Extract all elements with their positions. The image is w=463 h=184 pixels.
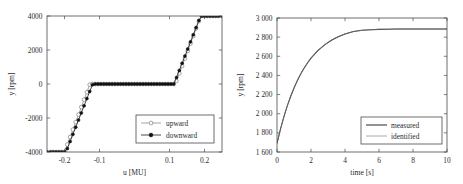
y-tick-label: 2 400: [256, 71, 273, 80]
series-marker-downward: [178, 69, 181, 72]
x-tick-label: 6: [377, 156, 381, 165]
series-marker-downward: [66, 147, 69, 150]
right-y-axis-title: y [rpm]: [236, 74, 245, 97]
legend-label-measured: measured: [391, 121, 420, 130]
legend-swatch-downward-marker: [149, 133, 153, 137]
x-tick-label: 0: [275, 156, 279, 165]
y-tick-label: 2000: [28, 46, 43, 55]
series-marker-downward: [83, 104, 86, 107]
legend-label-downward: downward: [166, 131, 198, 140]
y-tick-label: -2000: [25, 114, 43, 123]
series-marker-downward: [192, 33, 195, 36]
y-tick-label: 1 600: [256, 148, 273, 157]
y-tick-label: 2 600: [256, 52, 273, 61]
y-tick-label: 2 200: [256, 90, 273, 99]
series-marker-downward: [181, 62, 184, 65]
series-marker-downward: [71, 133, 74, 136]
series-marker-downward: [183, 55, 186, 58]
series-marker-downward: [189, 40, 192, 43]
x-tick-label: 8: [411, 156, 415, 165]
right-x-axis-title: time [s]: [350, 168, 373, 177]
y-tick-label: 2 000: [256, 109, 273, 118]
left-legend: upward downward: [136, 115, 214, 143]
left-x-axis-title: u [MU]: [123, 168, 146, 177]
chart-panel-hysteresis: -0.2-0.10.10.2-4000-2000020004000 u [MU]…: [0, 0, 232, 184]
step-response-plot-svg: 02468101 6001 8002 0002 2002 4002 6002 8…: [232, 0, 463, 184]
series-marker-downward: [85, 97, 88, 100]
legend-swatch-upward-marker: [149, 121, 153, 125]
series-marker-downward: [69, 140, 72, 143]
x-tick-label: -0.2: [59, 156, 71, 165]
right-legend: measured identified: [361, 117, 442, 144]
y-tick-label: 1 800: [256, 128, 273, 137]
left-y-axis-title: y [rpm]: [7, 73, 16, 96]
x-tick-label: -0.1: [94, 156, 106, 165]
hysteresis-plot-svg: -0.2-0.10.10.2-4000-2000020004000 u [MU]…: [0, 0, 232, 184]
x-tick-label: 0.1: [165, 156, 175, 165]
figure-container: -0.2-0.10.10.2-4000-2000020004000 u [MU]…: [0, 0, 463, 184]
y-tick-label: 2 800: [256, 33, 273, 42]
x-tick-label: 2: [309, 156, 313, 165]
x-tick-label: 10: [443, 156, 451, 165]
series-marker-downward: [74, 126, 77, 129]
series-marker-downward: [91, 83, 94, 86]
y-tick-label: 0: [39, 80, 43, 89]
y-tick-label: 4000: [28, 12, 43, 21]
series-marker-downward: [175, 76, 178, 79]
series-marker-downward: [172, 83, 175, 86]
legend-label-identified: identified: [391, 132, 420, 141]
chart-panel-step-response: 02468101 6001 8002 0002 2002 4002 6002 8…: [232, 0, 463, 184]
series-marker-downward: [197, 19, 200, 22]
series-marker-downward: [88, 90, 91, 93]
y-tick-label: 3 000: [256, 14, 273, 23]
legend-label-upward: upward: [166, 119, 188, 128]
series-marker-downward: [186, 47, 189, 50]
y-tick-label: -4000: [25, 148, 43, 157]
series-marker-downward: [77, 119, 80, 122]
series-marker-downward: [195, 26, 198, 29]
x-tick-label: 0.2: [200, 156, 210, 165]
series-marker-downward: [80, 111, 83, 114]
x-tick-label: 4: [343, 156, 347, 165]
